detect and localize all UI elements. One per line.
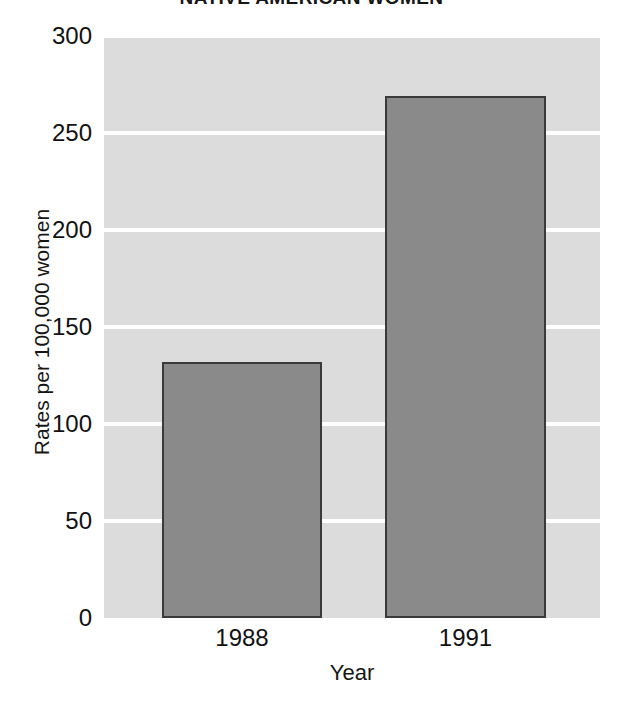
plot-area (104, 36, 600, 618)
y-axis-tick-labels: 050100150200250300 (0, 0, 92, 701)
y-tick-label: 150 (6, 315, 92, 339)
gridline (104, 34, 600, 38)
x-tick-label: 1991 (439, 624, 492, 652)
bar-chart-figure: NATIVE AMERICAN WOMEN Rates per 100,000 … (0, 0, 623, 701)
y-tick-label: 0 (6, 606, 92, 630)
bar-1988 (162, 362, 322, 618)
y-tick-label: 300 (6, 24, 92, 48)
y-tick-label: 250 (6, 121, 92, 145)
y-tick-label: 200 (6, 218, 92, 242)
x-axis-tick-labels: 19881991 (104, 624, 600, 658)
y-tick-label: 100 (6, 412, 92, 436)
bar-1991 (385, 96, 546, 618)
y-tick-label: 50 (6, 509, 92, 533)
x-axis-label: Year (104, 660, 600, 686)
x-tick-label: 1988 (215, 624, 268, 652)
chart-title: NATIVE AMERICAN WOMEN (0, 0, 623, 9)
